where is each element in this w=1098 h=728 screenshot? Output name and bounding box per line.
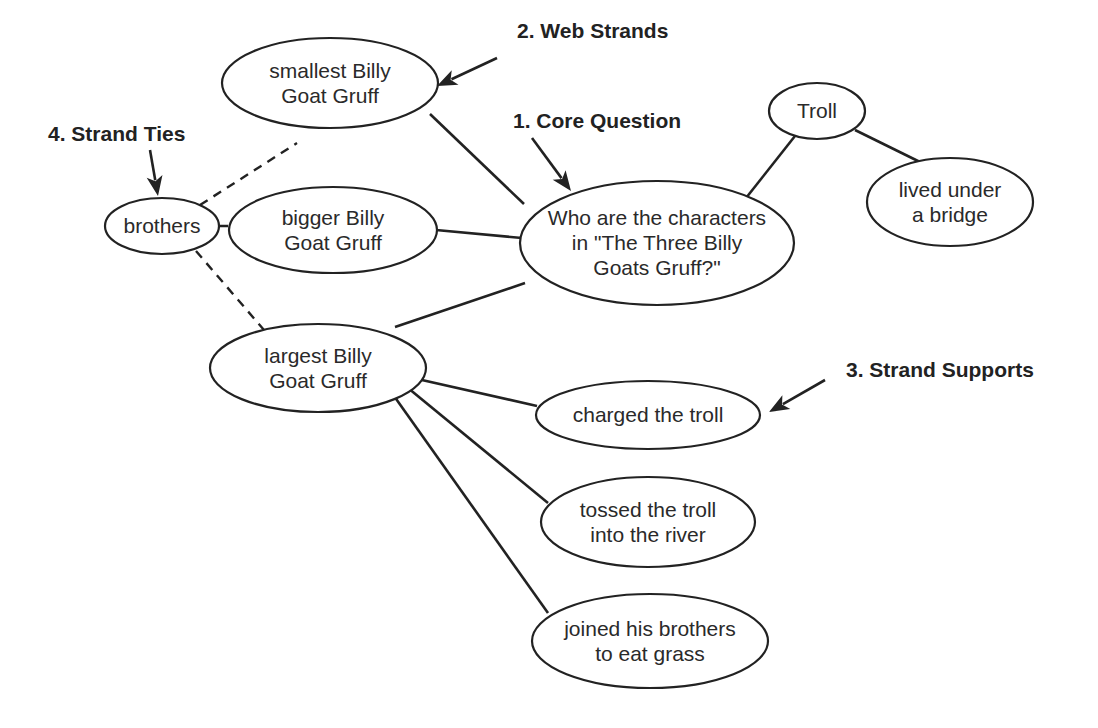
arrow-head-icon <box>769 395 790 412</box>
story-web-diagram: Who are the charactersin "The Three Bill… <box>0 0 1098 728</box>
node-brothers: brothers <box>105 198 219 254</box>
node-label: tossed the troll <box>580 498 717 521</box>
node-label: into the river <box>590 523 706 546</box>
node-charged: charged the troll <box>536 381 760 449</box>
node-label: charged the troll <box>573 403 724 426</box>
node-troll: Troll <box>769 83 865 139</box>
node-core: Who are the charactersin "The Three Bill… <box>520 181 794 305</box>
node-label: joined his brothers <box>563 617 736 640</box>
strand-smallest-to-core <box>430 114 524 204</box>
annotation-label: 2. Web Strands <box>517 19 668 42</box>
annotation-strand-supports: 3. Strand Supports <box>769 358 1034 412</box>
annotation-strand-ties: 4. Strand Ties <box>48 122 185 196</box>
node-joined: joined his brothersto eat grass <box>532 594 768 688</box>
arrow-line <box>532 138 562 178</box>
node-label: Who are the characters <box>548 206 766 229</box>
arrow-line <box>150 150 155 180</box>
node-label: in "The Three Billy <box>572 231 743 254</box>
node-label: to eat grass <box>595 642 705 665</box>
node-label: Goat Gruff <box>284 231 382 254</box>
annotation-label: 3. Strand Supports <box>846 358 1034 381</box>
strand-largest-to-joined <box>394 396 548 613</box>
strand-troll-to-bridge <box>855 130 920 162</box>
node-tossed: tossed the trollinto the river <box>541 477 755 567</box>
node-label: Goat Gruff <box>269 369 367 392</box>
node-label: Troll <box>797 99 837 122</box>
node-largest: largest BillyGoat Gruff <box>210 324 426 412</box>
arrow-line <box>783 380 825 404</box>
arrow-head-icon <box>553 170 571 191</box>
annotation-core-question: 1. Core Question <box>513 109 681 191</box>
strand-largest-to-core <box>395 283 525 327</box>
node-smallest: smallest BillyGoat Gruff <box>222 38 438 128</box>
strand-tie-brothers-to-largest <box>196 251 264 330</box>
annotation-label: 4. Strand Ties <box>48 122 185 145</box>
arrow-line <box>451 58 497 79</box>
strand-troll-to-core <box>746 136 795 198</box>
node-bridge: lived undera bridge <box>867 158 1033 246</box>
strand-bigger-to-core <box>436 230 522 238</box>
node-label: smallest Billy <box>269 59 391 82</box>
node-label: bigger Billy <box>282 206 385 229</box>
node-label: lived under <box>899 178 1002 201</box>
node-label: brothers <box>123 214 200 237</box>
node-label: Goats Gruff?" <box>593 256 720 279</box>
node-label: a bridge <box>912 203 988 226</box>
strand-largest-to-charged <box>413 378 537 406</box>
annotation-label: 1. Core Question <box>513 109 681 132</box>
node-bigger: bigger BillyGoat Gruff <box>229 187 437 273</box>
node-label: Goat Gruff <box>281 84 379 107</box>
node-label: largest Billy <box>264 344 372 367</box>
annotation-web-strands: 2. Web Strands <box>437 19 668 86</box>
